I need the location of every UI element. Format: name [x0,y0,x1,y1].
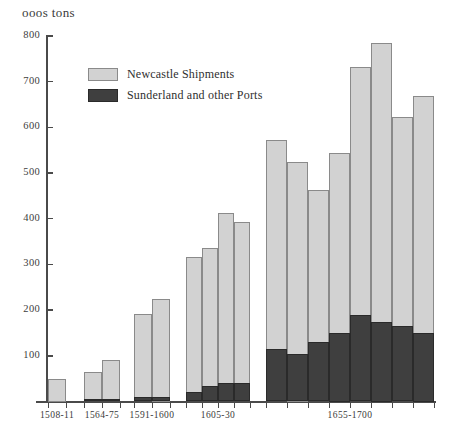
x-axis-group-tick [266,402,267,408]
x-axis-group-tick [250,402,251,408]
x-axis-label: 1591-1600 [130,410,175,420]
bar-segment-sunderland [202,386,218,402]
bar-segment-sunderland [134,397,152,402]
bar-segment-newcastle [48,379,66,402]
x-axis-group-tick [66,402,67,408]
bar-segment-sunderland [413,333,434,402]
bar-segment-sunderland [371,322,392,402]
y-axis-tick [46,309,53,310]
y-axis-tick [46,127,53,128]
bar-segment-sunderland [234,383,250,401]
bar-segment-sunderland [329,333,350,402]
legend-item-sunderland: Sunderland and other Ports [88,87,263,104]
bar-segment-newcastle [234,222,250,402]
y-axis-tick [46,218,53,219]
x-axis-tick [329,402,330,408]
x-axis-label: 1564-75 [85,410,119,420]
x-axis-label: 1508-11 [40,410,74,420]
bar-segment-newcastle [218,213,234,402]
bar-segment-sunderland [102,399,120,401]
bar-segment-sunderland [266,349,287,402]
x-axis-group-tick [120,402,121,408]
y-axis-tick [46,81,53,82]
bar-segment-sunderland [186,392,202,401]
legend-swatch-sunderland-icon [88,89,118,102]
bar-segment-sunderland [152,397,170,402]
bar-segment-sunderland [308,342,329,401]
legend: Newcastle Shipments Sunderland and other… [88,66,263,108]
y-axis-tick-label: 200 [12,303,40,314]
y-axis-tick-label: 600 [12,120,40,131]
x-axis-tick [102,402,103,408]
x-axis-tick [413,402,414,408]
x-axis-label: 1655-1700 [328,410,373,420]
bar-segment-newcastle [134,314,152,402]
legend-item-newcastle: Newcastle Shipments [88,66,263,83]
x-axis-group-tick [134,402,135,408]
bar-segment-sunderland [84,399,102,401]
x-axis-tick [287,402,288,408]
bar-segment-sunderland [392,326,413,401]
legend-label-sunderland: Sunderland and other Ports [127,88,263,103]
x-axis-tick [152,402,153,408]
x-axis-group-tick [170,402,171,408]
x-axis-tick [234,402,235,408]
y-axis-tick-label: 400 [12,212,40,223]
x-axis-tick [392,402,393,408]
bar-segment-newcastle [186,257,202,402]
x-axis-tick [350,402,351,408]
bar-segment-newcastle [102,360,120,401]
x-axis-label: 1605-30 [201,410,235,420]
legend-swatch-newcastle-icon [88,68,118,81]
bar-segment-sunderland [287,354,308,402]
y-axis-tick-label: 300 [12,257,40,268]
x-axis-group-tick [434,402,435,408]
legend-label-newcastle: Newcastle Shipments [127,67,234,82]
y-axis-tick-label: 500 [12,166,40,177]
x-axis-tick [202,402,203,408]
bar-segment-sunderland [350,315,371,402]
x-axis-group-tick [186,402,187,408]
x-axis-tick [308,402,309,408]
y-axis-tick-label: 700 [12,75,40,86]
coal-shipments-bar-chart: ooos tons 100200300400500600700800 1508-… [0,0,452,447]
x-axis-group-tick [84,402,85,408]
y-axis-tick [46,172,53,173]
x-axis-tick [371,402,372,408]
y-axis-tick-label: 100 [12,349,40,360]
x-axis-tick [218,402,219,408]
bar-segment-sunderland [218,383,234,401]
bar-segment-newcastle [152,299,170,402]
y-axis-tick [46,35,53,36]
x-axis-group-tick [48,402,49,408]
bar-segment-newcastle [84,372,102,402]
y-axis-tick [46,355,53,356]
y-axis-title: ooos tons [22,5,75,21]
y-axis-tick-label: 800 [12,29,40,40]
y-axis-tick [46,264,53,265]
bar-segment-newcastle [202,248,218,401]
